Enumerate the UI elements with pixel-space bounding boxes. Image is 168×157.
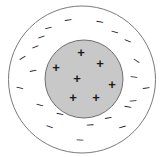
- positive-charge-symbol: +: [92, 90, 100, 105]
- positive-charge-symbol: +: [108, 77, 116, 92]
- positive-charge-symbol: +: [52, 60, 60, 75]
- positive-charge-symbol: +: [77, 45, 85, 60]
- positive-charge-symbol: +: [73, 71, 81, 86]
- charge-distribution-figure: –––––––––––––––––––––– +++++++: [0, 0, 168, 157]
- charge-diagram-svg: –––––––––––––––––––––– +++++++: [0, 0, 168, 157]
- positive-charge-symbol: +: [69, 90, 77, 105]
- negative-charge-symbol: –: [76, 132, 83, 146]
- negative-charge-symbol: –: [86, 117, 94, 131]
- positive-charge-symbol: +: [96, 56, 104, 71]
